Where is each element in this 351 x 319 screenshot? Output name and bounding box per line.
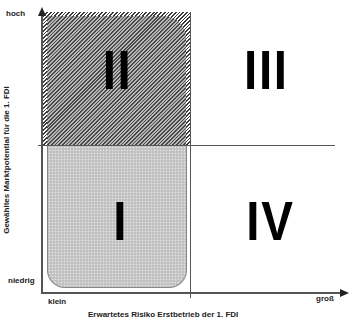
quadrant-ii-label: II — [103, 42, 133, 98]
y-axis-top-label: hoch — [6, 9, 25, 18]
x-axis-right-label: groß — [316, 294, 334, 303]
x-axis-title: Erwartetes Risiko Erstbetrieb der 1. FDI — [88, 310, 238, 319]
x-axis-left-label: klein — [48, 297, 66, 306]
quadrant-iv-label: IV — [246, 193, 294, 249]
y-axis-arrow-icon — [37, 7, 47, 16]
y-axis-title: Gewähltes Marktpotential für die 1. FDI — [2, 86, 11, 234]
horizontal-divider — [38, 145, 335, 146]
y-axis-bottom-label: niedrig — [8, 276, 35, 285]
y-axis-line — [41, 14, 43, 293]
x-axis-line — [41, 292, 343, 294]
quadrant-iii-label: III — [244, 42, 289, 98]
quadrant-i-label: I — [113, 193, 128, 249]
vertical-divider — [190, 12, 191, 298]
x-axis-arrow-icon — [340, 288, 349, 298]
